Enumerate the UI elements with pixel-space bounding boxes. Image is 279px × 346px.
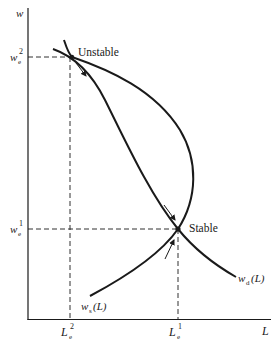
- supply-curve: [64, 40, 193, 296]
- svg-text:e: e: [177, 333, 180, 341]
- svg-text:s: s: [89, 307, 92, 315]
- svg-text:e: e: [69, 333, 72, 341]
- svg-text:1: 1: [19, 219, 23, 228]
- svg-text:e: e: [18, 58, 21, 66]
- svg-text:2: 2: [70, 322, 74, 331]
- svg-text:L: L: [60, 325, 68, 339]
- svg-text:2: 2: [19, 47, 23, 56]
- tick-Le2: L e 2: [60, 322, 74, 341]
- svg-text:w: w: [81, 300, 89, 312]
- stable-label: Stable: [189, 222, 218, 234]
- svg-text:w: w: [10, 51, 18, 63]
- svg-text:(L): (L): [93, 300, 107, 313]
- tick-we2: w e 2: [10, 47, 23, 66]
- stable-point: [175, 226, 180, 231]
- supply-curve-label: w s (L): [81, 300, 107, 315]
- svg-text:d: d: [246, 279, 250, 287]
- svg-text:1: 1: [178, 322, 182, 331]
- svg-text:(L): (L): [251, 272, 265, 285]
- x-axis-label: L: [261, 324, 269, 338]
- tick-Le1: L e 1: [168, 322, 182, 341]
- demand-curve: [53, 49, 236, 277]
- svg-text:w: w: [238, 272, 246, 284]
- unstable-point: [70, 55, 74, 59]
- unstable-label: Unstable: [78, 46, 119, 58]
- tick-we1: w e 1: [10, 219, 23, 238]
- y-axis-label: w: [16, 7, 24, 19]
- demand-curve-label: w d (L): [238, 272, 265, 287]
- svg-text:L: L: [168, 325, 176, 339]
- svg-text:e: e: [18, 230, 21, 238]
- svg-text:w: w: [10, 223, 18, 235]
- equilibrium-diagram: w L w e 2 w e 1 L e 2 L e 1 Unstable Sta…: [0, 0, 279, 346]
